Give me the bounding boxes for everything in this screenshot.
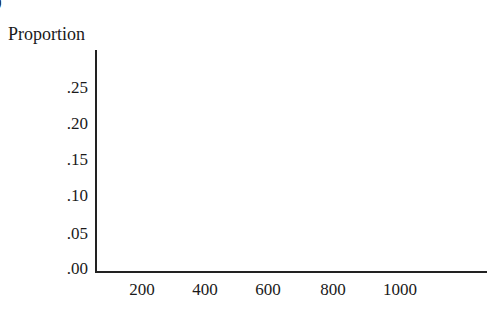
y-axis-label: Proportion xyxy=(8,24,85,45)
y-tick-label: .05 xyxy=(48,225,88,242)
x-tick-label: 600 xyxy=(255,281,281,298)
y-tick-label: .25 xyxy=(48,79,88,96)
y-tick-label: .20 xyxy=(48,115,88,132)
y-tick-label: .00 xyxy=(48,260,88,277)
x-tick-label: 200 xyxy=(129,281,155,298)
x-axis-line xyxy=(95,271,487,273)
x-tick-label: 1000 xyxy=(383,281,417,298)
y-axis-line xyxy=(95,50,97,273)
x-tick-label: 800 xyxy=(320,281,346,298)
y-tick-label: .15 xyxy=(48,151,88,168)
cropped-label-fragment: ) xyxy=(0,0,2,12)
y-tick-label: .10 xyxy=(48,187,88,204)
x-tick-label: 400 xyxy=(192,281,218,298)
